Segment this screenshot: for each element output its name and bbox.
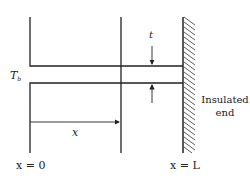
base-temperature-label: Tb (10, 70, 21, 82)
insulated-label-line2: end (200, 108, 250, 118)
position-label: x (72, 127, 78, 138)
insulation-hatching (184, 17, 195, 153)
fin-diagram (0, 0, 250, 179)
insulated-label-line1: Insulated (200, 95, 250, 105)
base-wall (30, 17, 183, 153)
end-label: x = L (170, 160, 200, 171)
thickness-label: t (149, 30, 153, 40)
base-temperature-subscript: b (17, 75, 21, 82)
insulated-end-label: Insulated end (200, 95, 250, 118)
origin-label: x = 0 (16, 160, 45, 171)
